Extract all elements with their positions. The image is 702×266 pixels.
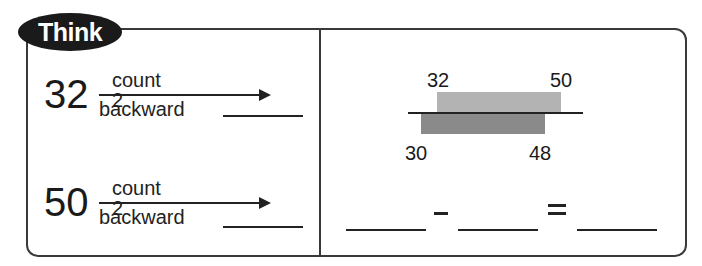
start-number: 50 (44, 182, 89, 222)
equals-sign-top (548, 204, 566, 207)
answer-blank[interactable] (223, 226, 303, 228)
minus-sign (434, 212, 448, 215)
column-divider (319, 28, 321, 257)
start-number: 32 (44, 74, 89, 114)
label-32: 32 (427, 70, 449, 90)
arrow-right-icon (99, 94, 261, 96)
bar-32-to-50 (437, 92, 561, 113)
equation-blank-2[interactable] (458, 229, 538, 231)
direction-label: backward (99, 207, 185, 227)
equation-blank-1[interactable] (346, 229, 426, 231)
equals-sign-bottom (548, 212, 566, 215)
label-48: 48 (529, 143, 551, 163)
label-30: 30 (405, 143, 427, 163)
direction-label: backward (99, 99, 185, 119)
arrow-right-icon (99, 202, 261, 204)
equation-blank-3[interactable] (577, 229, 657, 231)
bar-30-to-48 (421, 113, 545, 134)
think-badge: Think (18, 13, 122, 51)
baseline (408, 112, 583, 114)
answer-blank[interactable] (223, 115, 303, 117)
label-50: 50 (550, 70, 572, 90)
